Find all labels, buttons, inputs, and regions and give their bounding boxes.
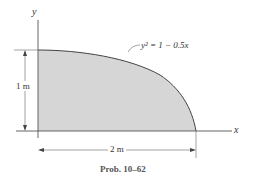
diagram-canvas xyxy=(0,0,256,178)
shaded-area xyxy=(38,50,196,131)
width-dimension-label: 2 m xyxy=(108,144,126,154)
height-dimension-label: 1 m xyxy=(15,81,31,91)
y-axis-label: y xyxy=(32,6,36,17)
curve-equation-label: y² = 1 − 0.5x xyxy=(141,40,189,50)
x-axis-label: x xyxy=(234,124,238,135)
figure-caption: Prob. 10–62 xyxy=(100,164,146,174)
